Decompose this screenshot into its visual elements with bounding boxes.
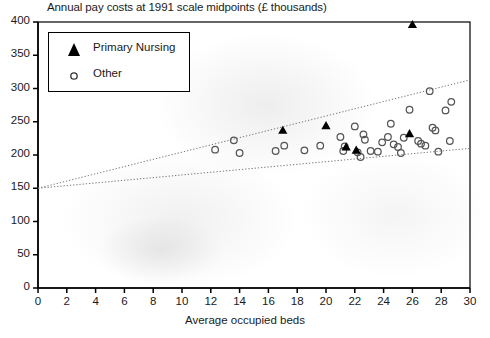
y-tick-label: 50 (0, 247, 30, 259)
series-primary-nursing-points (278, 20, 417, 154)
x-tick-label: 4 (82, 295, 110, 307)
x-tick-label: 12 (197, 295, 225, 307)
y-tick-label: 150 (0, 180, 30, 192)
x-tick-label: 2 (53, 295, 81, 307)
x-tick-label: 6 (110, 295, 138, 307)
x-tick-label: 28 (427, 295, 455, 307)
x-tick-label: 18 (283, 295, 311, 307)
x-tick-label: 0 (24, 295, 52, 307)
series-other-points (212, 88, 455, 160)
open-circle-icon (63, 63, 85, 89)
x-tick-label: 16 (254, 295, 282, 307)
filled-triangle-icon (63, 37, 85, 63)
chart-container: Annual pay costs at 1991 scale midpoints… (0, 0, 490, 338)
y-tick-label: 250 (0, 114, 30, 126)
x-tick-label: 20 (312, 295, 340, 307)
x-tick-label: 8 (139, 295, 167, 307)
x-tick-label: 26 (398, 295, 426, 307)
x-tick-label: 24 (370, 295, 398, 307)
y-tick-label: 400 (0, 14, 30, 26)
legend-item-other: Other (49, 63, 189, 89)
x-tick-label: 10 (168, 295, 196, 307)
y-tick-label: 200 (0, 147, 30, 159)
legend-label-primary-nursing: Primary Nursing (93, 41, 175, 53)
trend-lines (38, 80, 470, 188)
y-tick-label: 300 (0, 81, 30, 93)
legend-item-primary-nursing: Primary Nursing (49, 37, 189, 63)
y-tick-label: 100 (0, 214, 30, 226)
y-tick-label: 0 (0, 280, 30, 292)
y-tick-label: 350 (0, 47, 30, 59)
legend: Primary Nursing Other (48, 32, 190, 92)
x-tick-label: 14 (226, 295, 254, 307)
legend-label-other: Other (93, 67, 122, 79)
x-tick-label: 22 (341, 295, 369, 307)
x-axis-label: Average occupied beds (0, 314, 490, 326)
x-tick-label: 30 (456, 295, 484, 307)
